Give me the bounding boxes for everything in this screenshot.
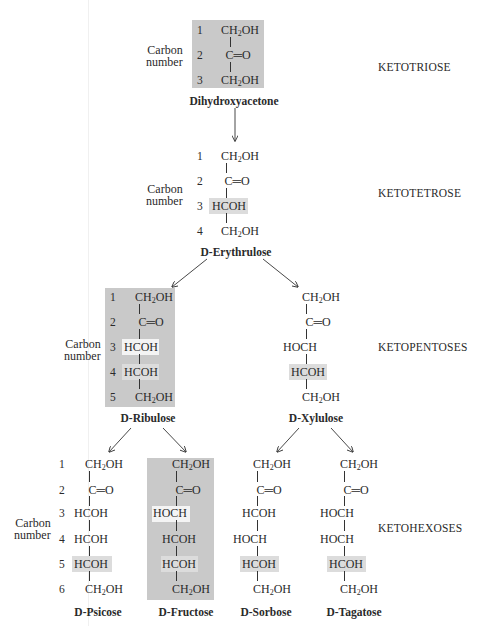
arrow-left-icon: [172, 259, 207, 287]
arrow-left-icon: [109, 428, 131, 452]
arrow-left-icon: [277, 428, 299, 452]
arrow-right-icon: [163, 428, 186, 452]
arrow-right-icon: [331, 428, 353, 452]
arrow-right-icon: [263, 259, 298, 287]
arrows-layer: [0, 0, 482, 626]
